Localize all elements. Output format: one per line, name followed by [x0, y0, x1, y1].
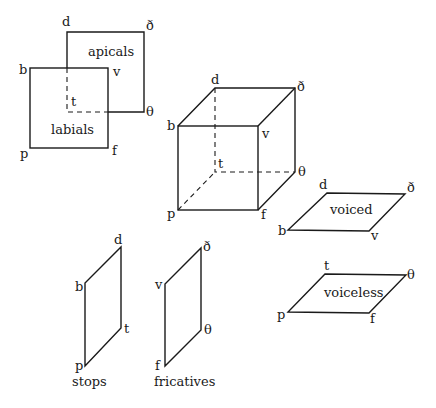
- corner-d: d: [319, 177, 327, 192]
- corner-p: p: [277, 307, 285, 322]
- fricatives-plane: [165, 248, 201, 366]
- voiced-figure: d ð voiced b v: [278, 177, 415, 243]
- cube-hidden-edge-p-t: [178, 172, 215, 210]
- corner-v: v: [370, 228, 379, 243]
- cube-edge-v-delta: [258, 88, 295, 126]
- corner-delta: ð: [203, 239, 211, 254]
- stops-figure: d b t p stops: [72, 232, 130, 389]
- voiced-label: voiced: [329, 202, 373, 217]
- corner-b: b: [278, 223, 286, 238]
- voiceless-label: voiceless: [323, 285, 384, 300]
- corner-p: p: [167, 206, 175, 221]
- corner-delta: ð: [407, 180, 415, 195]
- corner-t: t: [124, 321, 130, 336]
- cube-figure: d ð b v t θ p f: [167, 72, 306, 222]
- corner-f: f: [370, 311, 376, 326]
- corner-t: t: [71, 94, 77, 109]
- corner-b: b: [19, 62, 27, 77]
- corner-p: p: [20, 146, 28, 161]
- voiceless-figure: t θ voiceless p f: [277, 258, 415, 326]
- diagram-svg: d ð apicals b v t θ labials p f d ð b v …: [0, 0, 436, 408]
- corner-t: t: [218, 156, 224, 171]
- consonant-cube-diagram: d ð apicals b v t θ labials p f d ð b v …: [0, 0, 436, 408]
- corner-b: b: [167, 118, 175, 133]
- corner-t: t: [324, 258, 330, 273]
- corner-v: v: [112, 64, 121, 79]
- corner-d: d: [62, 14, 70, 29]
- apicals-label: apicals: [88, 44, 134, 59]
- corner-v: v: [154, 277, 163, 292]
- corner-f: f: [155, 358, 161, 373]
- corner-delta: ð: [146, 18, 154, 33]
- corner-f: f: [261, 207, 267, 222]
- corner-theta: θ: [407, 267, 415, 282]
- overlap-figure: d ð apicals b v t θ labials p f: [19, 14, 154, 161]
- stops-label: stops: [72, 374, 107, 389]
- stops-plane: [85, 247, 121, 366]
- corner-delta: ð: [297, 79, 305, 94]
- corner-p: p: [75, 358, 83, 373]
- corner-d: d: [211, 72, 219, 87]
- corner-v: v: [261, 126, 270, 141]
- fricatives-label: fricatives: [154, 374, 215, 389]
- corner-theta: θ: [146, 104, 154, 119]
- corner-d: d: [114, 232, 122, 247]
- corner-b: b: [75, 279, 83, 294]
- fricatives-figure: ð v θ f fricatives: [154, 239, 215, 389]
- corner-f: f: [112, 143, 118, 158]
- corner-theta: θ: [204, 322, 212, 337]
- labials-label: labials: [51, 122, 94, 137]
- corner-theta: θ: [298, 164, 306, 179]
